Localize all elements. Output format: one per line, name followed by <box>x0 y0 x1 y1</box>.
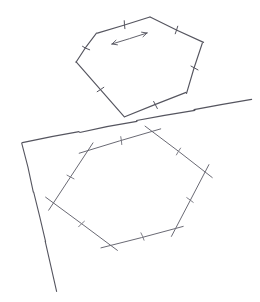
polygon-edge <box>76 33 96 62</box>
arrow-shaft <box>112 33 147 44</box>
edge-tick-mark <box>124 21 125 29</box>
arrow-head-start-barb-1 <box>112 44 117 45</box>
polygon-edge <box>79 129 161 153</box>
edge-tick-mark <box>141 233 144 240</box>
left-ray-segment <box>34 192 46 242</box>
polygon-edge <box>49 143 93 210</box>
upper-hexagon[interactable] <box>76 17 204 117</box>
polygon-edge <box>145 126 212 177</box>
guide-lines-group <box>22 99 252 291</box>
tangent-line-segment <box>137 110 195 120</box>
sketch-svg <box>0 0 260 302</box>
edge-tick-mark <box>97 87 104 91</box>
lower-hexagon-tick-marks <box>67 137 193 241</box>
left-ray-segment <box>45 241 56 291</box>
left-ray-segment <box>22 143 34 192</box>
edge-tick-mark <box>176 148 180 155</box>
tangent-line-segment <box>194 99 252 109</box>
polygon-edge <box>101 226 183 247</box>
polygon-edge <box>97 17 149 33</box>
edge-tick-mark <box>67 175 74 179</box>
lower-hexagon[interactable] <box>46 126 213 250</box>
geometry-sketch-canvas: Hand-drawn geometry sketch Two congruent… <box>0 0 260 302</box>
arrow-head-end-barb-1 <box>142 32 147 33</box>
upper-hexagon-tick-marks <box>82 21 198 109</box>
tangent-line-segment <box>22 132 79 143</box>
translation-arrow[interactable] <box>112 32 147 45</box>
tangent-line-segment <box>80 121 137 132</box>
